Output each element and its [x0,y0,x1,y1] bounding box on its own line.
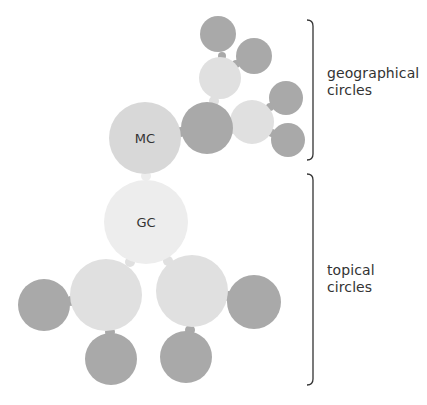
topical-label-line2: circles [327,279,375,296]
geographical-label-line1: geographical [327,65,419,82]
circle-node-topic-right-a [227,275,281,329]
circle-node-topic-left-b [85,333,137,385]
circle-shape [269,81,303,115]
bracket-layer [307,20,313,385]
circle-node-geo-upper-b [236,38,272,74]
circle-shape [227,275,281,329]
circle-node-geo-right-a [269,81,303,115]
circle-shape [181,102,233,154]
circle-shape [85,333,137,385]
circle-node-topic-right [156,255,228,327]
circle-shape [271,123,305,157]
circle-shape [236,38,272,74]
circle-shape [230,100,274,144]
node-gc: GC [104,180,188,264]
circle-shape [70,259,142,331]
circle-shape [199,57,241,99]
geographical-bracket [307,20,313,160]
node-layer: GCMC [18,16,305,385]
circle-node-topic-left-a [18,279,70,331]
node-label-mc: MC [135,131,155,146]
circle-node-geo-upper [199,57,241,99]
topical-circles-label: topical circles [327,262,375,296]
circle-node-topic-left [70,259,142,331]
circle-shape [200,16,236,52]
topical-bracket [307,174,313,385]
circle-shape [160,331,212,383]
node-label-gc: GC [136,215,155,230]
circle-node-geo-right [230,100,274,144]
geographical-label-line2: circles [327,82,419,99]
topical-label-line1: topical [327,262,375,279]
circle-node-geo-right-b [271,123,305,157]
node-mc: MC [109,102,181,174]
circle-shape [156,255,228,327]
circle-node-topic-right-b [160,331,212,383]
geographical-circles-label: geographical circles [327,65,419,99]
circle-network-diagram: GCMC [0,0,427,405]
circle-node-geo-upper-a [200,16,236,52]
circle-shape [18,279,70,331]
circle-node-geo-hub [181,102,233,154]
